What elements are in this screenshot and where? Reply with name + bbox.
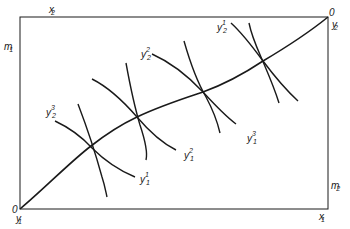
origin-label-y2: y2 bbox=[332, 20, 338, 31]
origin-zero-top-right: 0 bbox=[329, 8, 335, 18]
axis-label-x2: x2 bbox=[49, 5, 55, 16]
curve-label-y2-3: y32 bbox=[46, 104, 56, 119]
contract-curve bbox=[20, 17, 328, 209]
indifference-curve-y2-3 bbox=[55, 121, 135, 177]
curve-label-y1-2: y21 bbox=[184, 147, 194, 162]
indifference-curve-y2-2 bbox=[92, 79, 176, 150]
indifference-curve-y2-mid bbox=[152, 54, 236, 124]
indifference-curve-y2-1 bbox=[231, 23, 298, 101]
axis-label-x1: x1 bbox=[319, 212, 325, 223]
curve-label-y2-1: y12 bbox=[217, 19, 227, 34]
indifference-curve-y1-2 bbox=[126, 63, 147, 160]
curve-label-y1-3: y31 bbox=[247, 130, 257, 145]
curve-label-y2-2: y22 bbox=[141, 46, 151, 61]
indifference-curve-y1-1 bbox=[78, 104, 107, 197]
axis-label-m1: m1 bbox=[4, 42, 13, 53]
curve-label-y1-1: y11 bbox=[140, 171, 150, 186]
axis-label-m2: m2 bbox=[331, 181, 340, 192]
origin-label-y1: y1 bbox=[16, 214, 22, 225]
edgeworth-box-frame bbox=[20, 17, 328, 209]
